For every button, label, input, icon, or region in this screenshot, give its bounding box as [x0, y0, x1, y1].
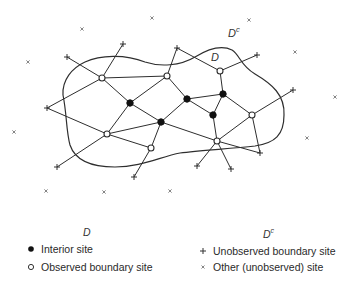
edge-o6-p5	[252, 90, 293, 115]
other-site-cross-icon	[333, 95, 336, 98]
edge-o4-p7	[57, 134, 107, 167]
legend-label: Interior site	[41, 243, 93, 255]
other-site-cross-icon	[150, 16, 153, 19]
other-sites-layer	[12, 16, 336, 193]
edge-o7-p9	[217, 141, 260, 153]
other-site-cross-icon	[102, 190, 105, 193]
legend-heading-dc-text: D	[263, 228, 271, 240]
unobserved-boundary-site-plus-icon	[64, 54, 70, 60]
edge-f4-o6	[223, 94, 252, 115]
legend-heading-dc: Dc	[263, 227, 274, 239]
edge-f2-o7	[161, 122, 217, 141]
unobserved-boundary-site-plus-icon	[254, 52, 260, 58]
unobserved-boundary-site-plus-icon	[44, 105, 50, 111]
unobserved-boundary-site-plus-icon	[54, 164, 60, 170]
other-site-cross-icon	[168, 189, 171, 192]
plus-icon	[197, 245, 209, 257]
edges-layer	[47, 44, 293, 177]
legend-label: Observed boundary site	[41, 261, 152, 273]
edge-f1-f2	[130, 103, 161, 122]
region-d-boundary	[63, 48, 284, 167]
edge-o2-f1	[130, 76, 167, 103]
edge-o1-f1	[102, 78, 130, 103]
unobserved-boundary-site-plus-icon	[257, 150, 263, 156]
unobserved-boundary-site-plus-icon	[290, 87, 296, 93]
unobserved-boundary-site-plus-icon	[131, 174, 137, 180]
edge-o7-p10	[197, 141, 217, 166]
cross-icon	[197, 261, 209, 273]
legend-item-unobserved-boundary-site: Unobserved boundary site	[197, 245, 336, 257]
unobserved-boundary-site-plus-icon	[228, 166, 234, 172]
edge-o5-p8	[134, 148, 151, 177]
observed-boundary-site-open-circle-icon	[148, 145, 154, 151]
other-site-cross-icon	[44, 189, 47, 192]
edge-o2-p3	[167, 48, 177, 76]
observed-boundary-site-open-circle-icon	[217, 68, 223, 74]
edge-o2-f3	[167, 76, 187, 99]
other-site-cross-icon	[80, 27, 83, 30]
edge-f3-f4	[187, 94, 223, 99]
other-site-cross-icon	[305, 136, 308, 139]
edge-f2-o5	[151, 122, 161, 148]
other-site-cross-icon	[26, 60, 29, 63]
region-dc-label-sup: c	[236, 25, 240, 34]
interior-site-filled-circle-icon	[220, 91, 226, 97]
region-d-label: D	[211, 51, 219, 63]
observed-boundary-site-open-circle-icon	[104, 131, 110, 137]
region-dc-label-base: D	[228, 27, 236, 39]
legend-item-observed-boundary-site: Observed boundary site	[25, 261, 152, 273]
edge-f3-f2	[161, 99, 187, 122]
legend-label: Other (unobserved) site	[213, 261, 323, 273]
observed-boundary-site-open-circle-icon	[164, 73, 170, 79]
edge-p2-o1	[102, 44, 123, 78]
legend-heading-d-text: D	[83, 226, 91, 238]
edge-o1-o2	[102, 76, 167, 78]
interior-site-filled-circle-icon	[127, 100, 133, 106]
edge-o4-o5	[107, 134, 151, 148]
observed-boundary-site-open-circle-icon	[249, 112, 255, 118]
edge-f5-o7	[213, 115, 217, 141]
lattice-diagram: D Dc	[0, 0, 363, 215]
other-site-cross-icon	[12, 130, 15, 133]
edge-f3-f5	[187, 99, 213, 115]
other-site-cross-icon	[247, 18, 250, 21]
legend-item-interior-site: Interior site	[25, 243, 93, 255]
observed-boundary-site-open-circle-icon	[99, 75, 105, 81]
edge-o7-p11	[217, 141, 231, 169]
region-dc-label: Dc	[228, 25, 240, 39]
legend-label: Unobserved boundary site	[213, 245, 336, 257]
interior-site-filled-circle-icon	[158, 119, 164, 125]
open-circle-icon	[25, 261, 37, 273]
edge-p6-o1	[47, 78, 102, 108]
interior-site-filled-circle-icon	[184, 96, 190, 102]
interior-site-filled-circle-icon	[210, 112, 216, 118]
edge-p1-o1	[67, 57, 102, 78]
legend-heading-d: D	[83, 227, 91, 238]
observed-boundary-site-open-circle-icon	[214, 138, 220, 144]
filled-circle-icon	[25, 243, 37, 255]
unobserved-boundary-site-plus-icon	[120, 41, 126, 47]
unobserved-boundary-site-plus-icon	[174, 45, 180, 51]
edge-o6-o7	[217, 115, 252, 141]
other-site-cross-icon	[293, 50, 296, 53]
edge-p6-o4	[47, 108, 107, 134]
legend-heading-dc-sup: c	[271, 227, 275, 234]
edge-o6-p9	[252, 115, 260, 153]
legend-item-other-site: Other (unobserved) site	[197, 261, 323, 273]
